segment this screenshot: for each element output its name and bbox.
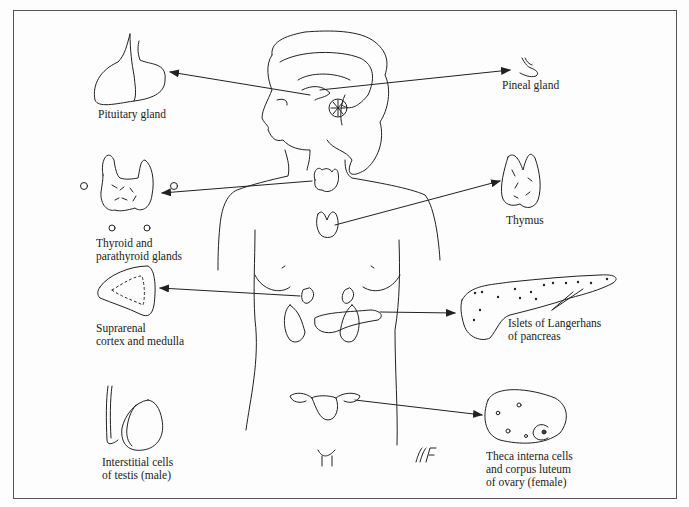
human-figure — [218, 31, 440, 466]
label-pancreas-line2: of pancreas — [508, 330, 561, 343]
label-ovary-line2: and corpus luteum — [486, 463, 571, 476]
label-thyroid-line2: parathyroid glands — [96, 250, 182, 263]
label-thymus: Thymus — [506, 214, 544, 227]
label-pancreas-line1: Islets of Langerhans — [508, 317, 601, 330]
label-pineal-gland: Pineal gland — [502, 79, 559, 92]
label-pituitary-gland: Pituitary gland — [98, 108, 166, 121]
label-ovary-line1: Theca interna cells — [486, 450, 573, 463]
label-ovary-line3: of ovary (female) — [486, 476, 566, 489]
testis-drawing — [106, 386, 162, 450]
label-testis-line2: of testis (male) — [102, 469, 171, 482]
pituitary-gland-drawing — [94, 34, 165, 105]
label-suprarenal-line1: Suprarenal — [96, 322, 146, 335]
label-testis-line1: Interstitial cells — [102, 456, 173, 469]
pineal-gland-drawing — [520, 58, 538, 77]
label-thyroid-line1: Thyroid and — [96, 237, 153, 250]
connector-arrows — [160, 70, 510, 415]
ovary-drawing — [485, 390, 566, 444]
label-suprarenal-line2: cortex and medulla — [96, 335, 184, 348]
suprarenal-gland-drawing — [98, 266, 155, 316]
thymus-drawing — [501, 154, 540, 207]
